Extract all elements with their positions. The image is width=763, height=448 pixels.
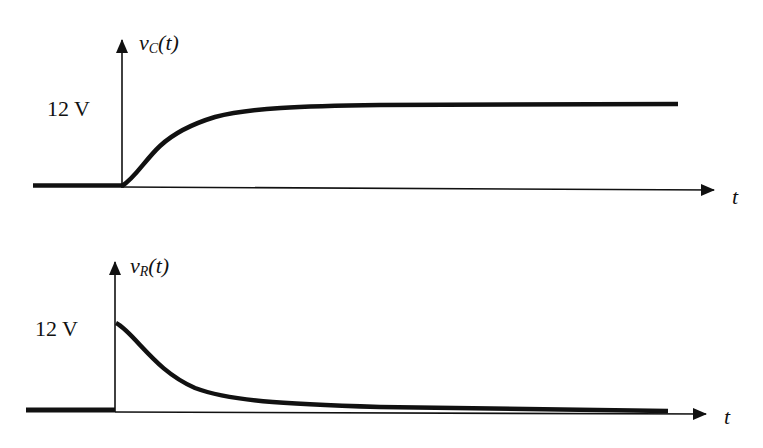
vr-y-label: vR(t) xyxy=(130,253,169,280)
vr-curve xyxy=(116,323,668,411)
vr-12v-label: 12 V xyxy=(35,316,78,342)
vr-t-label: t xyxy=(724,404,730,430)
vc-y-label: vC(t) xyxy=(139,30,179,57)
vr-label-main: v xyxy=(130,253,140,278)
vr-plot xyxy=(26,262,706,414)
vc-x-axis xyxy=(122,187,714,190)
vr-label-tail: (t) xyxy=(148,253,169,278)
vc-t-label: t xyxy=(732,184,738,210)
vc-label-sub: C xyxy=(149,41,158,56)
rc-charging-plots xyxy=(0,0,763,448)
vc-plot xyxy=(33,40,714,190)
vc-label-main: v xyxy=(139,30,149,55)
vc-label-tail: (t) xyxy=(158,30,179,55)
vc-curve xyxy=(122,104,678,186)
vc-12v-label: 12 V xyxy=(47,96,90,122)
